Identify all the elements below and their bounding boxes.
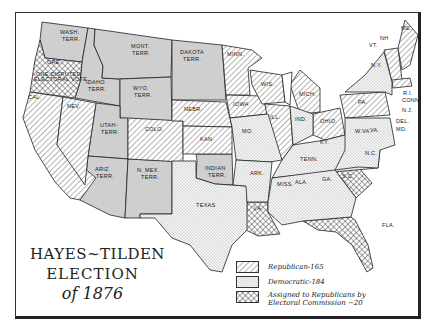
svg-text:ARK.: ARK. (250, 170, 264, 176)
svg-text:TERR.: TERR. (62, 36, 80, 42)
svg-text:ILL.: ILL. (270, 114, 281, 120)
legend-label-line-2: Electoral Commission ~20 (268, 299, 363, 307)
region-wyo-terr (120, 77, 172, 121)
svg-text:R.I.: R.I. (403, 90, 413, 96)
legend-label: Assigned to Republicans by Electoral Com… (268, 291, 366, 307)
svg-text:N. MEX.: N. MEX. (137, 167, 160, 173)
svg-text:N.Y.: N.Y. (371, 62, 382, 68)
svg-text:ME.: ME. (401, 25, 412, 31)
svg-text:NEV.: NEV. (67, 103, 81, 109)
svg-text:TERR.: TERR. (88, 86, 106, 92)
svg-text:GA.: GA. (322, 176, 333, 182)
svg-text:IND.: IND. (295, 116, 307, 122)
svg-text:MD.: MD. (396, 126, 407, 132)
title-line-3: of 1876 (30, 284, 155, 304)
svg-text:UTAH-: UTAH- (100, 122, 118, 128)
svg-text:TERR.: TERR. (208, 172, 226, 178)
svg-text:TEXAS: TEXAS (196, 202, 216, 208)
svg-text:CONN: CONN (402, 97, 419, 103)
svg-text:MISS.: MISS. (277, 181, 294, 187)
svg-text:ALA.: ALA. (295, 179, 308, 185)
svg-text:PA.: PA. (358, 99, 368, 105)
svg-text:TERR.: TERR. (183, 56, 201, 62)
svg-text:MINN.: MINN. (227, 51, 244, 57)
svg-text:WASH.: WASH. (60, 29, 79, 35)
hatch-swatch-icon (236, 261, 259, 273)
svg-text:TERR.: TERR. (141, 174, 159, 180)
map-title: HAYES~TILDEN ELECTION of 1876 (30, 244, 155, 304)
title-line-2: ELECTION (30, 264, 155, 284)
svg-text:CAL.: CAL. (28, 94, 42, 100)
svg-text:TERR.: TERR. (134, 92, 152, 98)
svg-text:TERR.: TERR. (101, 129, 119, 135)
svg-text:ARIZ.: ARIZ. (95, 166, 111, 172)
svg-text:COLO.: COLO. (145, 126, 164, 132)
svg-text:ELECTORAL VOTE: ELECTORAL VOTE (34, 76, 87, 82)
svg-text:MONT.: MONT. (131, 43, 150, 49)
svg-text:WYO.: WYO. (133, 85, 149, 91)
svg-text:INDIAN: INDIAN (205, 165, 225, 171)
region-ohio (313, 108, 345, 140)
svg-text:NH: NH (380, 35, 389, 41)
svg-text:KAN.: KAN. (200, 136, 214, 142)
crosshatch-swatch-icon (236, 291, 259, 303)
legend-label: Democratic-184 (268, 278, 325, 286)
svg-text:VT.: VT. (369, 42, 378, 48)
legend-item-republican: Republican-165 (236, 261, 324, 273)
title-line-1: HAYES~TILDEN (30, 244, 155, 264)
legend-label: Republican-165 (268, 263, 324, 271)
region-ma (392, 78, 412, 88)
region-ny (345, 52, 392, 95)
svg-text:N.J.: N.J. (402, 107, 413, 113)
dots-swatch-icon (236, 276, 259, 288)
svg-text:NEBR.: NEBR. (184, 106, 202, 112)
svg-text:S.C.: S.C. (342, 173, 354, 179)
svg-text:WIS.: WIS. (261, 81, 274, 87)
svg-text:LA.: LA. (254, 205, 263, 211)
svg-text:TENN.: TENN. (300, 156, 318, 162)
svg-text:IOWA: IOWA (233, 101, 249, 107)
region-colo (128, 118, 183, 162)
svg-text:DEL.: DEL. (396, 118, 410, 124)
svg-text:IDAHO: IDAHO (86, 79, 105, 85)
legend-label-line-1: Assigned to Republicans by (268, 291, 366, 299)
svg-text:TERR.: TERR. (96, 173, 114, 179)
svg-text:ORE.: ORE. (47, 59, 62, 65)
svg-text:DAKOTA: DAKOTA (180, 49, 204, 55)
legend-item-commission: Assigned to Republicans by Electoral Com… (236, 291, 366, 307)
svg-text:N.C.: N.C. (365, 150, 377, 156)
svg-text:MO.: MO. (242, 128, 253, 134)
legend-item-democratic: Democratic-184 (236, 276, 325, 288)
svg-text:FLA.: FLA. (382, 222, 395, 228)
region-wash-terr (40, 22, 88, 62)
svg-text:TERR.: TERR. (132, 50, 150, 56)
region-pa (340, 92, 390, 118)
svg-text:VA.: VA. (370, 127, 380, 133)
svg-text:MICH.: MICH. (299, 91, 316, 97)
svg-text:OHIO: OHIO (320, 118, 336, 124)
svg-text:KY.: KY. (320, 139, 329, 145)
